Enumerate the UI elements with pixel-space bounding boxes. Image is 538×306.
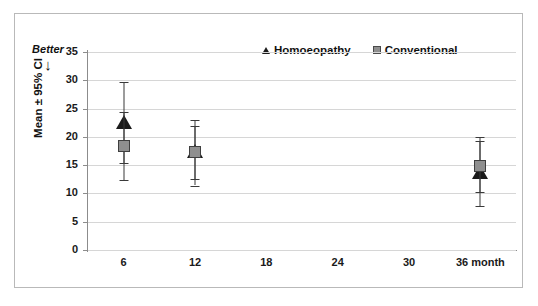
y-axis-tick-labels: 35302520151050: [48, 0, 78, 306]
x-tick-label: 6: [121, 256, 127, 268]
x-tick-label: 36 month: [456, 256, 505, 268]
y-tick-label: 10: [50, 187, 78, 198]
x-tick-label: 24: [332, 256, 344, 268]
y-tick-mark: [83, 52, 88, 53]
gridline: [88, 250, 516, 251]
y-tick-mark: [83, 222, 88, 223]
data-point-conventional: [474, 160, 486, 172]
gridline: [88, 193, 516, 194]
y-tick-label: 5: [50, 216, 78, 227]
plot-area: [88, 52, 516, 250]
error-bar-cap: [119, 82, 128, 83]
error-bar-cap: [119, 180, 128, 181]
error-bar-cap: [191, 120, 200, 121]
chart-figure: Better ↓ Mean ± 95% CI 35302520151050 Ho…: [0, 0, 538, 306]
error-bar-cap: [191, 126, 200, 127]
y-tick-label: 20: [50, 131, 78, 142]
x-tick-label: 12: [189, 256, 201, 268]
error-bar-cap: [476, 137, 485, 138]
error-bar-cap: [191, 179, 200, 180]
y-tick-mark: [83, 250, 88, 251]
gridline: [88, 109, 516, 110]
gridline: [88, 137, 516, 138]
x-tick-label: 18: [260, 256, 272, 268]
error-bar-cap: [476, 192, 485, 193]
data-point-conventional: [118, 140, 130, 152]
error-bar-cap: [119, 112, 128, 113]
y-tick-label: 30: [50, 74, 78, 85]
data-point-conventional: [189, 146, 201, 158]
y-tick-label: 0: [50, 244, 78, 255]
y-axis-title: Mean ± 95% CI: [32, 38, 44, 158]
gridline: [88, 222, 516, 223]
y-tick-mark: [83, 80, 88, 81]
gridline: [88, 165, 516, 166]
x-tick-label: 30: [403, 256, 415, 268]
y-tick-label: 25: [50, 103, 78, 114]
y-tick-label: 15: [50, 159, 78, 170]
y-tick-mark: [83, 193, 88, 194]
y-tick-mark: [83, 109, 88, 110]
gridline: [88, 52, 516, 53]
gridline: [88, 80, 516, 81]
y-tick-mark: [83, 165, 88, 166]
error-bar-cap: [191, 186, 200, 187]
error-bar-cap: [476, 206, 485, 207]
y-tick-mark: [83, 137, 88, 138]
y-tick-label: 35: [50, 46, 78, 57]
